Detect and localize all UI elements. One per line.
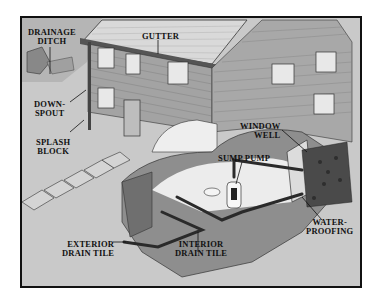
label-line: WELL <box>240 131 280 140</box>
sump-pump-unit <box>231 188 237 200</box>
label-line: SUMP PUMP <box>218 154 270 163</box>
label-line: DRAIN TILE <box>175 249 227 258</box>
label-sump-pump: SUMP PUMP <box>218 154 270 163</box>
front-door <box>124 100 140 136</box>
label-downspout: DOWN- SPOUT <box>34 100 65 118</box>
label-interior-drain-tile: INTERIOR DRAIN TILE <box>175 240 227 258</box>
label-window-well: WINDOW WELL <box>240 122 280 140</box>
label-line: GUTTER <box>142 32 179 41</box>
label-line: DRAIN TILE <box>62 249 114 258</box>
label-drainage-ditch: DRAINAGE DITCH <box>28 28 76 46</box>
label-line: BLOCK <box>36 147 70 156</box>
label-line: DITCH <box>28 37 76 46</box>
label-gutter: GUTTER <box>142 32 179 41</box>
waterproofing-membrane <box>302 142 352 207</box>
label-line: PROOFING <box>306 227 353 236</box>
diagram-frame: DRAINAGE DITCH GUTTER DOWN- SPOUT SPLASH… <box>20 16 362 288</box>
label-exterior-drain-tile: EXTERIOR DRAIN TILE <box>62 240 114 258</box>
downspout <box>88 42 91 130</box>
label-splash-block: SPLASH BLOCK <box>36 138 70 156</box>
label-line: SPOUT <box>34 109 65 118</box>
label-waterproofing: WATER- PROOFING <box>306 218 353 236</box>
